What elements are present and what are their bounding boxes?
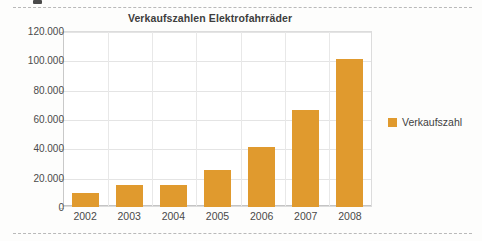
y-axis-tick-label: 20.000 xyxy=(4,172,64,183)
bar-slot xyxy=(284,31,328,207)
bar-2003 xyxy=(116,185,143,207)
bar-2006 xyxy=(248,147,275,207)
x-axis-tick-labels: 2002200320042005200620072008 xyxy=(63,210,372,222)
bar-2007 xyxy=(292,110,319,207)
bar-slot xyxy=(63,31,107,207)
chart-title: Verkaufszahlen Elektrofahrräder xyxy=(60,12,360,24)
dashed-rule-bottom xyxy=(13,233,472,234)
legend-entry-label: Verkaufszahl xyxy=(402,116,462,128)
x-axis-tick-label: 2005 xyxy=(195,210,239,222)
x-axis-tick-label: 2002 xyxy=(63,210,107,222)
x-axis-tick-label: 2003 xyxy=(107,210,151,222)
bar-2005 xyxy=(204,170,231,207)
y-axis-tick-label: 100.000 xyxy=(4,55,64,66)
y-axis-tick-label: 80.000 xyxy=(4,84,64,95)
bar-slot xyxy=(195,31,239,207)
bar-slot xyxy=(240,31,284,207)
x-axis-tick-label: 2006 xyxy=(240,210,284,222)
x-axis-tick-label: 2004 xyxy=(151,210,195,222)
y-axis-tick-label: 120.000 xyxy=(4,26,64,37)
bar-slot xyxy=(328,31,372,207)
legend-swatch-icon xyxy=(388,118,397,127)
y-axis-tick-label: 60.000 xyxy=(4,114,64,125)
chart-legend: Verkaufszahl xyxy=(388,116,462,128)
ink-fragment-artifact xyxy=(33,0,42,4)
x-axis-tick-label: 2008 xyxy=(328,210,372,222)
bar-2002 xyxy=(72,193,99,207)
bar-2004 xyxy=(160,185,187,207)
bar-slot xyxy=(107,31,151,207)
bar-chart: Verkaufszahlen Elektrofahrräder 20022003… xyxy=(0,10,482,232)
bar-2008 xyxy=(336,59,363,207)
bar-series-verkaufszahl xyxy=(63,31,372,207)
y-axis-tick-label: 0 xyxy=(4,202,64,213)
x-axis-tick-label: 2007 xyxy=(284,210,328,222)
y-axis-tick-label: 40.000 xyxy=(4,143,64,154)
bar-slot xyxy=(151,31,195,207)
dashed-rule-top xyxy=(13,7,472,8)
